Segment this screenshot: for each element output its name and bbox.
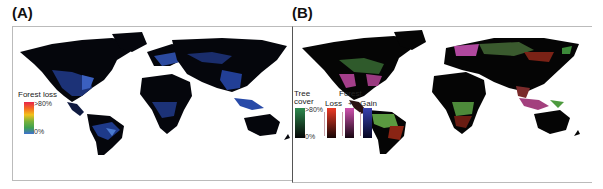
loss-plus-gain-arrow-icon <box>342 112 343 136</box>
tree-cover-legend-title: Tree cover <box>294 90 316 106</box>
forest-loss-colorbar <box>24 102 34 134</box>
plus-legend-title: + <box>348 100 353 108</box>
tree-cover-colorbar <box>295 108 305 138</box>
gain-legend-title: Gain <box>360 100 377 108</box>
gain-colorbar <box>363 108 372 138</box>
forest-loss-max-label: >80% <box>34 100 52 107</box>
tree-cover-max-label: >80% <box>305 106 323 113</box>
gain-arrow-icon <box>360 112 361 136</box>
loss-plus-gain-colorbar <box>345 108 354 138</box>
loss-legend-title: Loss <box>325 100 342 108</box>
tree-cover-min-label: 0% <box>305 133 315 140</box>
loss-colorbar <box>327 108 336 138</box>
forest-loss-legend-title: Forest loss <box>18 91 57 99</box>
forest-legend-title: Forest <box>339 90 362 98</box>
panel-a-label: (A) <box>12 4 33 21</box>
loss-arrow-icon <box>324 112 325 136</box>
panel-b-label: (B) <box>292 4 313 21</box>
forest-loss-min-label: 0% <box>34 128 44 135</box>
